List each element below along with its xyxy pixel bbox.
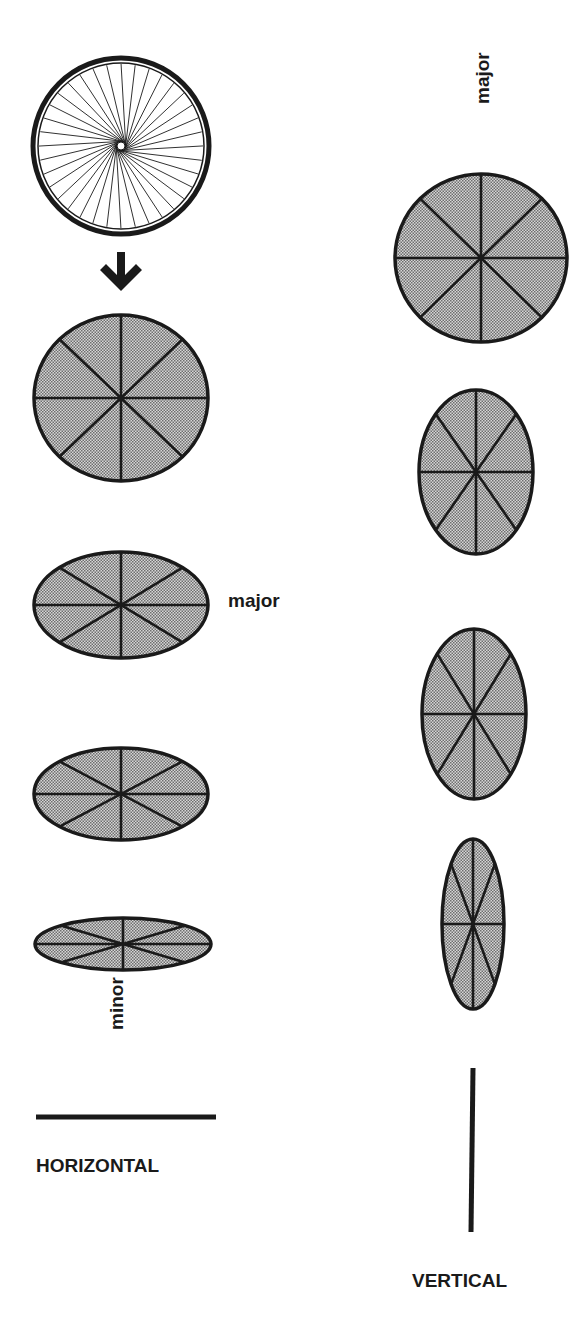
diagram-canvas — [0, 0, 579, 1329]
vertical-edge-line — [471, 1068, 473, 1232]
wheel-ellipse-horizontal-3 — [34, 748, 208, 840]
bicycle-wheel-icon — [33, 58, 209, 234]
major-axis-label-horizontal: major — [228, 590, 280, 612]
wheel-ellipse-horizontal-1 — [34, 315, 208, 481]
wheel-ellipse-vertical-3 — [422, 629, 526, 799]
vertical-ellipse-column — [395, 174, 567, 1009]
horizontal-ellipse-column — [34, 315, 211, 970]
wheel-ellipse-horizontal-4 — [35, 918, 211, 970]
wheel-ellipse-vertical-4 — [442, 839, 504, 1009]
minor-axis-label: minor — [106, 977, 128, 1030]
wheel-ellipse-vertical-2 — [419, 390, 533, 554]
major-axis-label-vertical: major — [472, 52, 494, 104]
wheel-ellipse-vertical-1 — [395, 174, 567, 342]
arrow-down-icon — [100, 252, 142, 291]
vertical-caption: VERTICAL — [412, 1270, 507, 1292]
wheel-ellipse-horizontal-2 — [34, 552, 208, 658]
horizontal-caption: HORIZONTAL — [36, 1155, 159, 1177]
